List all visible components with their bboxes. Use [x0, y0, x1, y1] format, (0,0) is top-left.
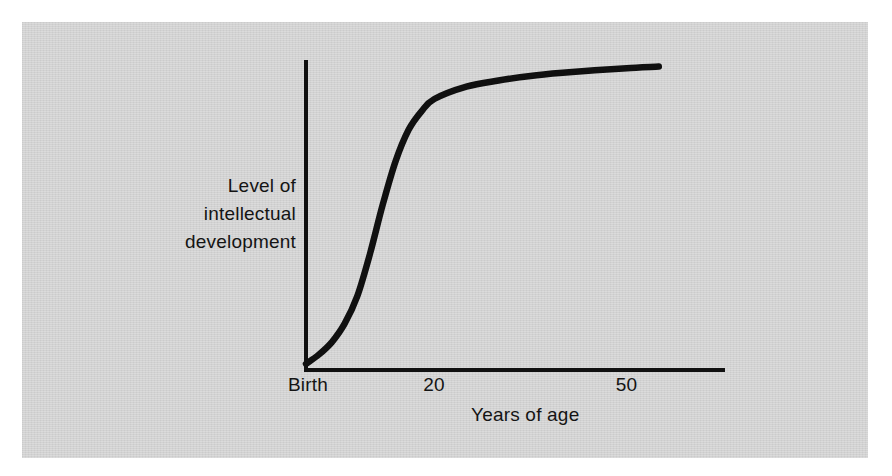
x-tick-label-20: 20 — [423, 374, 445, 396]
y-axis-label-line-3: development — [120, 228, 296, 256]
x-axis-title: Years of age — [471, 404, 579, 426]
y-axis-label: Level of intellectual development Level … — [120, 172, 296, 256]
y-axis-label-line-1b: Level of — [120, 172, 296, 200]
y-axis-label-line-2: intellectual — [120, 200, 296, 228]
figure-canvas: Level of intellectual development Level … — [0, 0, 892, 476]
x-tick-label-50: 50 — [616, 374, 638, 396]
growth-curve — [306, 67, 659, 364]
x-tick-label-birth: Birth — [288, 374, 328, 396]
